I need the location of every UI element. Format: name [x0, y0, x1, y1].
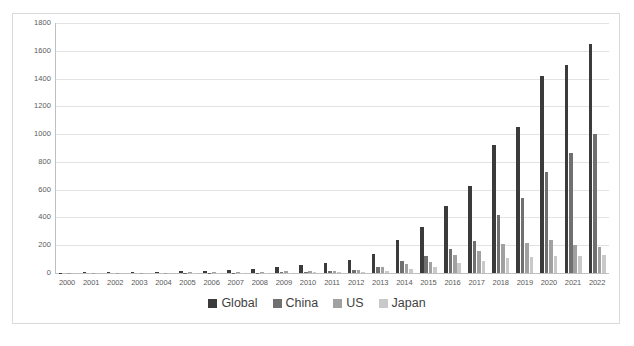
- x-axis-tick-label: 2010: [296, 277, 320, 289]
- bar[interactable]: [525, 243, 529, 273]
- x-axis-tick-label: 2015: [416, 277, 440, 289]
- legend-item-china[interactable]: China: [273, 297, 319, 310]
- bar[interactable]: [236, 272, 240, 273]
- x-axis-tick-label: 2021: [561, 277, 585, 289]
- bar-group: [200, 23, 224, 273]
- bar[interactable]: [308, 271, 312, 273]
- bar[interactable]: [578, 256, 582, 273]
- bar[interactable]: [409, 269, 413, 273]
- y-axis-tick-label: 800: [11, 158, 51, 166]
- x-axis-tick-label: 2006: [200, 277, 224, 289]
- bar[interactable]: [549, 240, 553, 273]
- x-axis-tick-label: 2013: [368, 277, 392, 289]
- bar[interactable]: [593, 134, 597, 273]
- bar[interactable]: [376, 267, 380, 273]
- bar[interactable]: [400, 261, 404, 273]
- bar[interactable]: [457, 263, 461, 273]
- bar[interactable]: [492, 145, 496, 273]
- bar[interactable]: [482, 261, 486, 273]
- bar[interactable]: [385, 271, 389, 273]
- bar-group: [392, 23, 416, 273]
- bar[interactable]: [212, 272, 216, 273]
- bar[interactable]: [299, 265, 303, 273]
- x-axis-tick-label: 2011: [320, 277, 344, 289]
- legend-label: Global: [221, 297, 257, 310]
- bar[interactable]: [598, 247, 602, 273]
- y-axis-tick-label: 200: [11, 241, 51, 249]
- bar[interactable]: [602, 255, 606, 273]
- y-axis-tick-label: 600: [11, 186, 51, 194]
- x-axis-tick-label: 2002: [103, 277, 127, 289]
- bar[interactable]: [433, 267, 437, 273]
- legend-item-us[interactable]: US: [333, 297, 363, 310]
- bar[interactable]: [337, 272, 341, 273]
- y-axis-tick-labels: 180016001400120010008006004002000: [13, 23, 51, 273]
- bar[interactable]: [424, 256, 428, 273]
- bar[interactable]: [361, 272, 365, 273]
- bar[interactable]: [453, 255, 457, 273]
- x-axis-tick-label: 2004: [151, 277, 175, 289]
- bar[interactable]: [569, 153, 573, 273]
- bar-group: [127, 23, 151, 273]
- bar[interactable]: [521, 198, 525, 273]
- bar[interactable]: [203, 271, 207, 273]
- bar[interactable]: [473, 241, 477, 273]
- bar[interactable]: [352, 270, 356, 273]
- bar[interactable]: [420, 227, 424, 273]
- bar[interactable]: [554, 256, 558, 273]
- bar[interactable]: [333, 271, 337, 274]
- bar[interactable]: [405, 264, 409, 273]
- bar[interactable]: [179, 271, 183, 273]
- bar[interactable]: [573, 245, 577, 273]
- bar[interactable]: [545, 172, 549, 273]
- bar[interactable]: [324, 263, 328, 273]
- bar-group: [296, 23, 320, 273]
- bar[interactable]: [530, 257, 534, 273]
- legend-item-japan[interactable]: Japan: [379, 297, 426, 310]
- bar[interactable]: [227, 270, 231, 273]
- bar[interactable]: [313, 272, 317, 273]
- bar[interactable]: [396, 240, 400, 273]
- bar[interactable]: [131, 272, 135, 273]
- bar[interactable]: [449, 249, 453, 273]
- bar[interactable]: [328, 271, 332, 273]
- bar[interactable]: [501, 244, 505, 273]
- legend-item-global[interactable]: Global: [208, 297, 257, 310]
- bar[interactable]: [497, 215, 501, 273]
- bar[interactable]: [468, 186, 472, 274]
- legend-label: Japan: [392, 297, 426, 310]
- bar-groups: [55, 23, 609, 273]
- bar[interactable]: [275, 267, 279, 273]
- bar[interactable]: [540, 76, 544, 273]
- bar[interactable]: [506, 258, 510, 273]
- bar[interactable]: [372, 254, 376, 273]
- bar-group: [585, 23, 609, 273]
- bar[interactable]: [188, 272, 192, 273]
- bar[interactable]: [107, 272, 111, 273]
- bar[interactable]: [83, 272, 87, 273]
- bar[interactable]: [444, 206, 448, 273]
- bar[interactable]: [251, 269, 255, 273]
- bar-group: [513, 23, 537, 273]
- y-axis-tick-label: 0: [11, 269, 51, 277]
- bar[interactable]: [381, 267, 385, 273]
- bar[interactable]: [284, 271, 288, 273]
- y-axis-tick-label: 400: [11, 213, 51, 221]
- bar[interactable]: [280, 272, 284, 273]
- bar[interactable]: [589, 44, 593, 273]
- y-axis-tick-label: 1800: [11, 19, 51, 27]
- x-axis-tick-label: 2005: [175, 277, 199, 289]
- bar[interactable]: [357, 270, 361, 273]
- bar[interactable]: [260, 272, 264, 273]
- bar[interactable]: [516, 127, 520, 273]
- x-axis-tick-label: 2020: [537, 277, 561, 289]
- bar-group: [441, 23, 465, 273]
- bar[interactable]: [429, 262, 433, 273]
- bar[interactable]: [155, 272, 159, 273]
- bar-group: [103, 23, 127, 273]
- bar[interactable]: [477, 251, 481, 273]
- bar[interactable]: [348, 260, 352, 273]
- bar[interactable]: [565, 65, 569, 273]
- bar[interactable]: [304, 272, 308, 273]
- bar-group: [248, 23, 272, 273]
